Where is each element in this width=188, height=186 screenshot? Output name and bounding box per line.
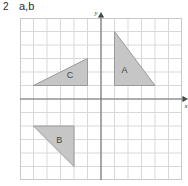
axes: xy bbox=[20, 9, 188, 180]
triangle-label-a: A bbox=[122, 65, 128, 75]
problem-number: 2 bbox=[3, 1, 9, 13]
x-axis-label: x bbox=[183, 102, 188, 110]
y-axis-label: y bbox=[93, 9, 98, 17]
worksheet-figure-page: 2 a,b xy ABC bbox=[0, 0, 188, 186]
triangle-b bbox=[34, 126, 75, 167]
triangle-label-c: C bbox=[67, 70, 74, 80]
coordinate-plane-svg: xy ABC bbox=[11, 9, 188, 186]
coordinate-grid-figure: xy ABC bbox=[11, 9, 188, 186]
triangle-label-b: B bbox=[56, 135, 62, 145]
